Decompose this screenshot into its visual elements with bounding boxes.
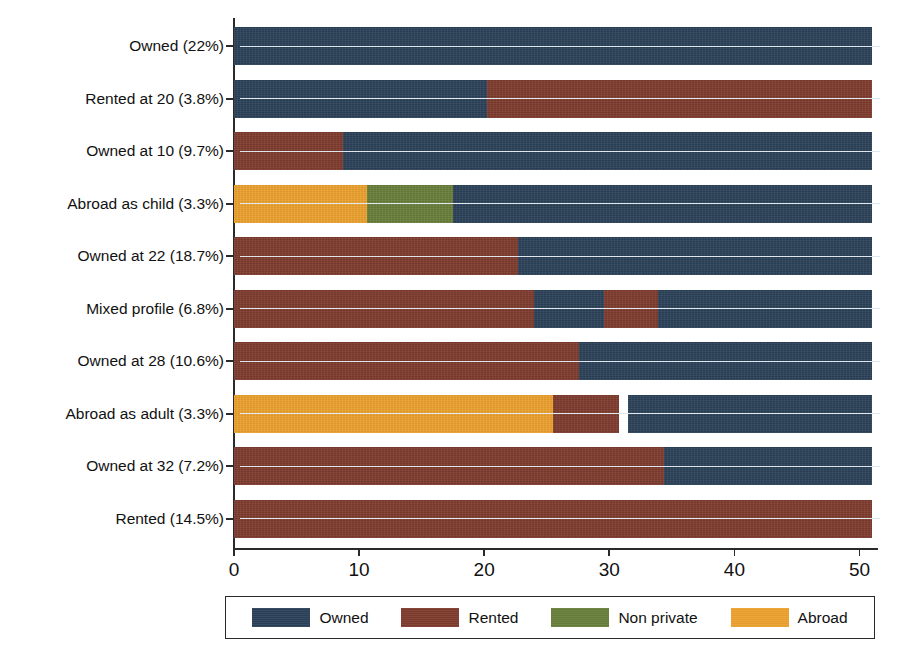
chart-legend: OwnedRentedNon privateAbroad xyxy=(225,596,875,639)
legend-swatch-icon xyxy=(252,608,310,627)
legend-item-non-private[interactable]: Non private xyxy=(551,608,697,627)
y-axis-tick xyxy=(226,413,233,415)
y-axis-tick xyxy=(226,518,233,520)
legend-swatch-icon xyxy=(401,608,459,627)
x-axis-tick xyxy=(233,548,235,556)
legend-swatch-icon xyxy=(551,608,609,627)
y-axis-label: Rented (14.5%) xyxy=(2,511,224,527)
leader-line xyxy=(240,361,880,362)
x-axis-label: 10 xyxy=(349,559,370,581)
y-axis-tick xyxy=(226,45,233,47)
x-axis-tick xyxy=(859,548,861,556)
x-axis-tick xyxy=(734,548,736,556)
y-axis-tick xyxy=(226,308,233,310)
y-axis-label: Owned at 28 (10.6%) xyxy=(2,353,224,369)
y-axis-tick xyxy=(226,203,233,205)
leader-line xyxy=(240,308,880,309)
y-axis-label: Abroad as adult (3.3%) xyxy=(2,406,224,422)
legend-item-owned[interactable]: Owned xyxy=(252,608,368,627)
y-axis-label: Owned at 22 (18.7%) xyxy=(2,248,224,264)
y-axis-labels: Owned (22%)Rented at 20 (3.8%)Owned at 1… xyxy=(0,20,224,545)
y-axis-tick xyxy=(226,360,233,362)
legend-item-abroad[interactable]: Abroad xyxy=(731,608,848,627)
x-axis-label: 30 xyxy=(599,559,620,581)
x-axis-label: 0 xyxy=(229,559,240,581)
x-axis-line xyxy=(233,548,878,550)
leader-line xyxy=(240,98,880,99)
y-axis-tick xyxy=(226,465,233,467)
legend-label: Rented xyxy=(468,609,518,627)
x-axis-label: 50 xyxy=(849,559,870,581)
x-axis-tick xyxy=(483,548,485,556)
legend-label: Non private xyxy=(618,609,697,627)
leader-line xyxy=(240,413,880,414)
leader-line xyxy=(240,466,880,467)
y-axis-tick xyxy=(226,98,233,100)
leader-line xyxy=(240,256,880,257)
legend-item-rented[interactable]: Rented xyxy=(401,608,518,627)
leader-line xyxy=(240,518,880,519)
y-axis-label: Owned at 32 (7.2%) xyxy=(2,458,224,474)
x-axis-label: 40 xyxy=(724,559,745,581)
y-axis-label: Mixed profile (6.8%) xyxy=(2,301,224,317)
legend-label: Abroad xyxy=(798,609,848,627)
legend-label: Owned xyxy=(319,609,368,627)
y-axis-label: Owned (22%) xyxy=(2,38,224,54)
leader-line xyxy=(240,46,880,47)
leader-line xyxy=(240,151,880,152)
leader-line xyxy=(240,203,880,204)
y-axis-label: Owned at 10 (9.7%) xyxy=(2,143,224,159)
y-axis-tick xyxy=(226,150,233,152)
y-axis-label: Rented at 20 (3.8%) xyxy=(2,91,224,107)
x-axis-tick xyxy=(608,548,610,556)
y-axis-label: Abroad as child (3.3%) xyxy=(2,196,224,212)
legend-swatch-icon xyxy=(731,608,789,627)
x-axis-label: 20 xyxy=(474,559,495,581)
x-axis-tick xyxy=(358,548,360,556)
y-axis-tick xyxy=(226,255,233,257)
stacked-bar-chart: Owned (22%)Rented at 20 (3.8%)Owned at 1… xyxy=(0,0,898,664)
